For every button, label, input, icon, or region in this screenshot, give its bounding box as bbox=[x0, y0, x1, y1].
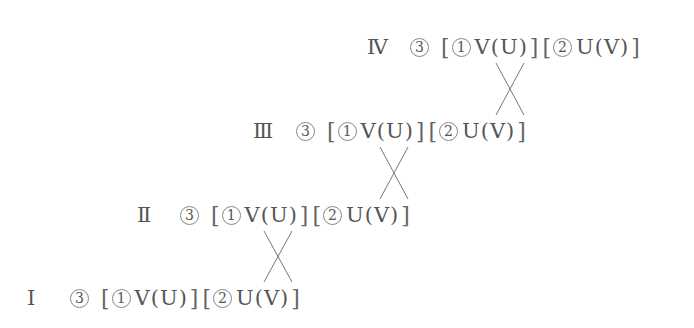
cross-connector-2-to-1 bbox=[264, 231, 292, 282]
cross-connector-4-to-3 bbox=[496, 63, 524, 115]
cross-connector-3-to-2 bbox=[380, 147, 408, 199]
cross-connectors bbox=[0, 0, 694, 328]
